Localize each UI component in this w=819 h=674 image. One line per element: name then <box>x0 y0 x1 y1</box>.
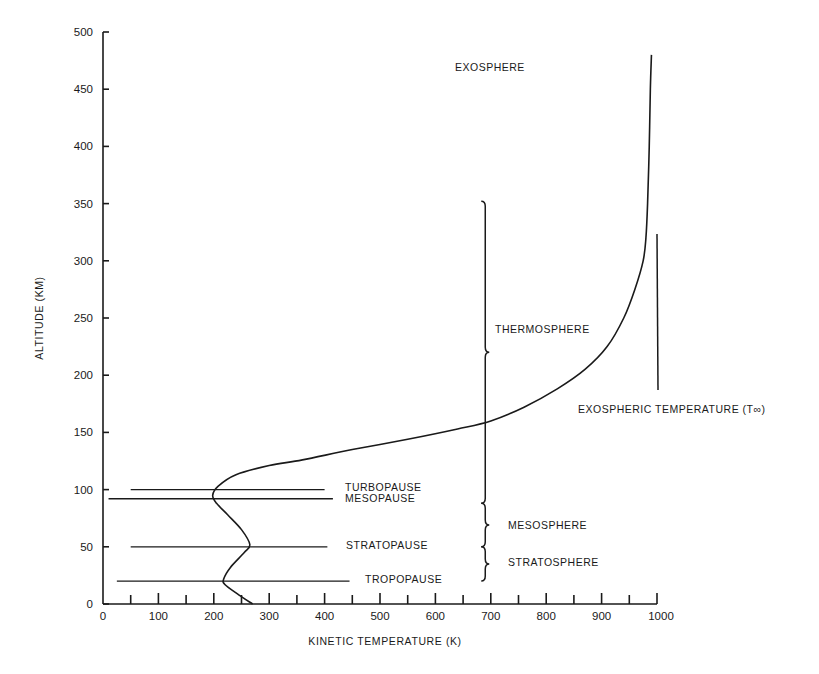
y-tick-label: 450 <box>74 83 93 95</box>
y-tick-label: 350 <box>74 198 93 210</box>
x-tick-label: 600 <box>426 610 445 622</box>
y-tick-label: 200 <box>74 369 93 381</box>
atmosphere-temperature-chart: 0501001502002503003504004505000100200300… <box>0 0 819 674</box>
region-braces <box>481 201 489 581</box>
x-tick-label: 800 <box>537 610 556 622</box>
y-tick-label: 100 <box>74 484 93 496</box>
reference-label-mesopause: MESOPAUSE <box>345 492 415 504</box>
x-tick-label: 200 <box>204 610 223 622</box>
region-label-stratosphere: STRATOSPHERE <box>508 556 599 568</box>
brace <box>481 547 489 581</box>
brace <box>481 503 489 546</box>
y-tick-label: 0 <box>87 598 93 610</box>
x-tick-label: 500 <box>370 610 389 622</box>
y-axis-title: ALTITUDE (KM) <box>33 276 45 359</box>
y-tick-label: 50 <box>80 541 93 553</box>
x-tick-label: 900 <box>592 610 611 622</box>
x-tick-label: 0 <box>100 610 106 622</box>
region-label-thermosphere: THERMOSPHERE <box>495 323 590 335</box>
x-axis-title: KINETIC TEMPERATURE (K) <box>308 635 461 647</box>
region-label-exosphere: EXOSPHERE <box>455 61 525 73</box>
reference-lines: TURBOPAUSEMESOPAUSESTRATOPAUSETROPOPAUSE <box>109 481 443 585</box>
y-tick-label: 300 <box>74 255 93 267</box>
x-tick-label: 100 <box>149 610 168 622</box>
annotation-labels: EXOSPHERETHERMOSPHEREMESOSPHERESTRATOSPH… <box>455 61 765 568</box>
y-tick-label: 400 <box>74 140 93 152</box>
brace <box>481 201 489 503</box>
y-tick-label: 150 <box>74 426 93 438</box>
exospheric-temperature-label: EXOSPHERIC TEMPERATURE (T∞) <box>578 403 765 415</box>
x-tick-label: 400 <box>315 610 334 622</box>
reference-label-tropopause: TROPOPAUSE <box>365 573 442 585</box>
region-label-mesosphere: MESOSPHERE <box>508 519 587 531</box>
y-tick-label: 500 <box>74 26 93 38</box>
reference-label-stratopause: STRATOPAUSE <box>346 539 428 551</box>
x-tick-label: 300 <box>260 610 279 622</box>
y-tick-label: 250 <box>74 312 93 324</box>
exospheric-temperature-marker <box>657 234 658 390</box>
x-tick-label: 1000 <box>648 610 674 622</box>
x-tick-label: 700 <box>481 610 500 622</box>
